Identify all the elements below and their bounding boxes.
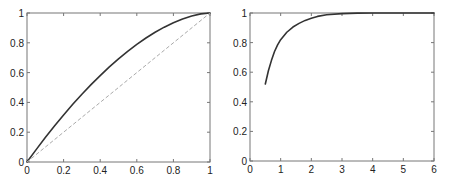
- x-tick-label: 0.2: [57, 165, 71, 176]
- left-plot: 00.20.40.60.8100.20.40.60.81: [10, 8, 213, 176]
- x-tick-label: 0: [247, 164, 253, 175]
- y-tick-label: 0.4: [233, 97, 247, 108]
- y-tick-label: 0.6: [233, 67, 247, 78]
- x-tick-label: 4: [370, 164, 376, 175]
- axes-frame: [250, 13, 434, 161]
- x-tick-label: 2: [309, 164, 315, 175]
- x-tick-label: 0: [24, 165, 30, 176]
- x-tick-label: 1: [278, 164, 284, 175]
- x-tick-label: 5: [401, 164, 407, 175]
- y-tick-label: 0.8: [233, 38, 247, 49]
- y-tick-label: 0.2: [233, 126, 247, 137]
- y-tick-label: 1: [18, 8, 24, 19]
- y-tick-label: 1: [241, 8, 247, 19]
- x-tick-label: 0.4: [93, 165, 107, 176]
- x-tick-label: 3: [339, 164, 345, 175]
- x-tick-label: 1: [207, 165, 213, 176]
- y-tick-label: 0.2: [10, 127, 24, 138]
- y-tick-label: 0.6: [10, 68, 24, 79]
- x-tick-label: 6: [431, 164, 437, 175]
- series-line-curve: [265, 13, 434, 84]
- y-tick-label: 0.4: [10, 97, 24, 108]
- chart-figure: 00.20.40.60.8100.20.40.60.81 012345600.2…: [0, 0, 449, 181]
- x-tick-label: 0.6: [130, 165, 144, 176]
- y-tick-label: 0: [18, 157, 24, 168]
- series-line-diagonal: [27, 13, 210, 162]
- y-tick-label: 0: [241, 156, 247, 167]
- x-tick-label: 0.8: [166, 165, 180, 176]
- right-plot: 012345600.20.40.60.81: [233, 8, 437, 175]
- y-tick-label: 0.8: [10, 38, 24, 49]
